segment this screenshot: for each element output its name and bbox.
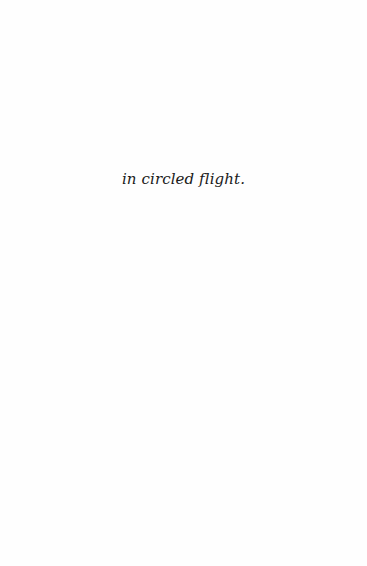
book-page: in circled flight.	[0, 0, 367, 566]
verse-line: in circled flight.	[0, 168, 367, 190]
